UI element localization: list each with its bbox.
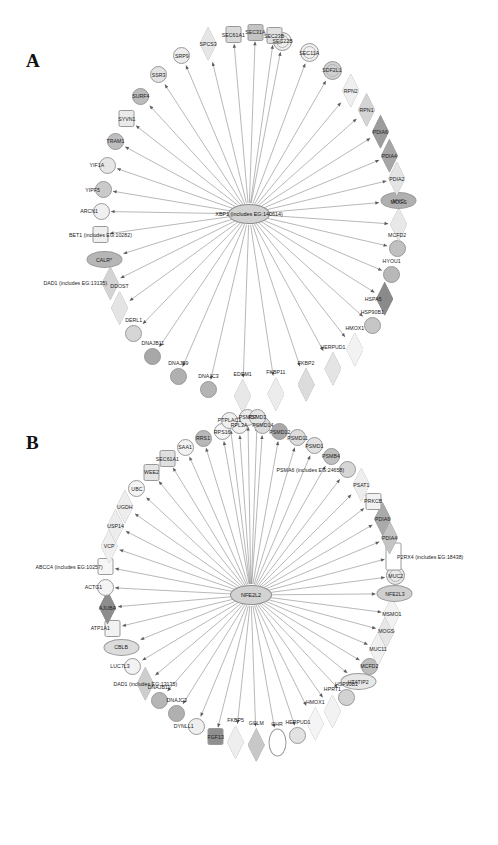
network-edge (147, 498, 243, 588)
network-edge (258, 220, 374, 293)
gene-node[interactable] (372, 325, 373, 326)
gene-node-label: FGF13 (207, 734, 223, 740)
gene-node-label: SDF2L1 (322, 67, 341, 73)
gene-node[interactable] (315, 723, 316, 724)
gene-node[interactable] (347, 469, 348, 470)
gene-node[interactable] (107, 165, 108, 166)
edge-arrow-icon (238, 435, 241, 439)
network-edge (261, 542, 379, 591)
network-edge (261, 525, 373, 590)
gene-node-label: HTATIP2 (348, 679, 369, 685)
edge-arrow-icon (115, 568, 119, 571)
edge-arrow-icon (343, 669, 347, 673)
gene-node[interactable] (332, 368, 333, 369)
network-edge (258, 138, 370, 208)
gene-node-label: FKBP11 (266, 369, 285, 375)
gene-node[interactable] (176, 713, 177, 714)
gene-node[interactable] (119, 308, 120, 309)
network-edge (130, 220, 240, 300)
gene-node[interactable] (178, 376, 179, 377)
gene-node[interactable] (103, 189, 104, 190)
gene-node-label: SEC23B (264, 33, 284, 39)
gene-node-label: PDIA4 (382, 535, 397, 541)
gene-node-label: MCFD2 (360, 663, 378, 669)
gene-node-label: WEE2 (144, 469, 159, 475)
gene-node[interactable] (208, 389, 209, 390)
gene-node[interactable] (397, 248, 398, 249)
gene-node[interactable] (105, 566, 106, 567)
node-shape-diamond (346, 333, 363, 367)
network-edge (231, 430, 250, 584)
gene-node-label: FKBP2 (298, 360, 315, 366)
network-edge (234, 44, 248, 203)
gene-node-label: HERPUD1 (320, 344, 345, 350)
gene-node[interactable] (306, 384, 307, 385)
edge-arrow-icon (302, 64, 305, 68)
gene-node-label: SSR3 (152, 72, 166, 78)
network-edge (251, 225, 274, 376)
gene-node[interactable] (332, 711, 333, 712)
panel-a-edges (0, 0, 498, 400)
gene-node[interactable] (398, 224, 399, 225)
gene-node[interactable] (354, 349, 355, 350)
edge-arrow-icon (130, 297, 134, 301)
edge-arrow-icon (217, 723, 220, 727)
node-shape-vell (268, 729, 286, 757)
gene-node[interactable] (112, 628, 113, 629)
gene-node[interactable] (297, 735, 298, 736)
node-shape-circle (383, 266, 400, 283)
gene-node-label: HERPUD1 (285, 719, 310, 725)
network-edge (256, 103, 341, 206)
gene-node[interactable] (393, 556, 394, 557)
gene-node-label: SAA1 (178, 444, 191, 450)
gene-node[interactable] (105, 587, 106, 588)
gene-node-label: BET1 (includes EG:10282) (69, 232, 132, 238)
network-edge (258, 479, 340, 586)
gene-node[interactable] (384, 298, 385, 299)
gene-node-label: SYVN1 (118, 116, 135, 122)
gene-node[interactable] (235, 742, 236, 743)
node-shape-circle (289, 727, 306, 744)
panel-b-hub-label: NFE2L2 (241, 592, 261, 598)
gene-node-label: PSMD1 (305, 443, 323, 449)
gene-node[interactable] (256, 744, 257, 745)
gene-node[interactable] (391, 274, 392, 275)
network-edge (141, 599, 241, 639)
gene-node-label: ARCN1 (80, 208, 98, 214)
gene-node[interactable] (277, 742, 278, 743)
network-edge (183, 604, 245, 704)
gene-node-label: UBC (131, 486, 142, 492)
gene-node[interactable] (152, 356, 153, 357)
network-edge (115, 588, 240, 595)
edge-arrow-icon (319, 693, 323, 697)
edge-arrow-icon (336, 479, 340, 483)
network-edge (259, 495, 351, 587)
gene-node[interactable] (196, 726, 197, 727)
network-edge (256, 605, 306, 706)
edge-arrow-icon (368, 525, 372, 528)
gene-node[interactable] (101, 211, 102, 212)
gene-node-label: HMOX1 (346, 325, 365, 331)
gene-node-label: PRKCB (364, 498, 382, 504)
network-edge (254, 224, 323, 351)
gene-node[interactable] (275, 394, 276, 395)
network-edge (260, 601, 359, 661)
gene-node-label: RPN1 (360, 107, 374, 113)
gene-node[interactable] (133, 333, 134, 334)
gene-node-label: HSP90B1 (361, 309, 384, 315)
edge-arrow-icon (119, 549, 123, 552)
node-diamond-icon (346, 333, 363, 367)
network-edge (260, 181, 387, 211)
network-edge (159, 481, 244, 586)
network-edge (260, 216, 387, 245)
gene-node[interactable] (159, 700, 160, 701)
gene-node[interactable] (132, 666, 133, 667)
gene-node[interactable] (346, 697, 347, 698)
node-diamond-icon (248, 728, 265, 762)
node-diamond-icon (298, 368, 315, 402)
gene-node-label: USP14 (107, 523, 124, 529)
network-edge (121, 219, 240, 278)
network-edge (155, 602, 242, 675)
gene-node[interactable] (242, 395, 243, 396)
edge-arrow-icon (378, 610, 382, 613)
